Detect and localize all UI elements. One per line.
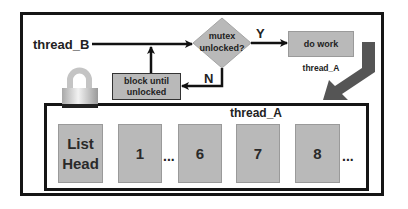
list-node-6: 6 bbox=[178, 124, 222, 183]
list-ellipsis-1: ... bbox=[163, 148, 175, 164]
list-node-8: 8 bbox=[295, 124, 340, 183]
list-node-1-label: 1 bbox=[136, 145, 144, 162]
list-node-7-label: 7 bbox=[254, 145, 262, 162]
list-node-8-label: 8 bbox=[313, 145, 321, 162]
list-node-7: 7 bbox=[236, 124, 280, 183]
list-head-node: List Head bbox=[58, 124, 103, 183]
list-node-6-label: 6 bbox=[196, 145, 204, 162]
list-head-line-1: List bbox=[67, 134, 94, 154]
list-node-1: 1 bbox=[118, 124, 162, 183]
list-ellipsis-2: ... bbox=[342, 148, 354, 164]
list-head-line-2: Head bbox=[62, 154, 99, 174]
